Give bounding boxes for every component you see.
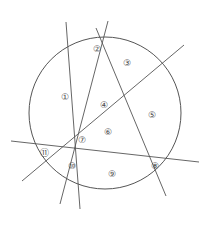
region-1: ① (58, 90, 73, 105)
line-a (66, 22, 80, 209)
region-3: ③ (120, 56, 135, 71)
region-10: ⑩ (65, 159, 80, 174)
region-7: ⑦ (75, 133, 90, 148)
region-4-label: ④ (100, 100, 108, 110)
region-9-label: ⑨ (108, 169, 116, 179)
circle-regions-figure: ① ② ③ ④ ⑤ ⑥ ⑦ ⑧ ⑨ ⑩ ⑪ (0, 0, 210, 225)
region-4: ④ (97, 98, 112, 113)
region-9: ⑨ (105, 167, 120, 182)
region-5-label: ⑤ (148, 110, 156, 120)
region-8-label: ⑧ (151, 161, 159, 171)
region-6-label: ⑥ (104, 127, 112, 137)
figure-canvas (0, 0, 210, 225)
region-6: ⑥ (101, 125, 116, 140)
region-11-label: ⑪ (40, 148, 49, 158)
region-2-label: ② (93, 44, 101, 54)
region-1-label: ① (61, 92, 69, 102)
region-3-label: ③ (123, 58, 131, 68)
region-11: ⑪ (37, 146, 52, 161)
region-7-label: ⑦ (78, 135, 86, 145)
region-10-label: ⑩ (68, 161, 76, 171)
region-2: ② (90, 42, 105, 57)
region-8: ⑧ (148, 159, 163, 174)
region-5: ⑤ (145, 108, 160, 123)
